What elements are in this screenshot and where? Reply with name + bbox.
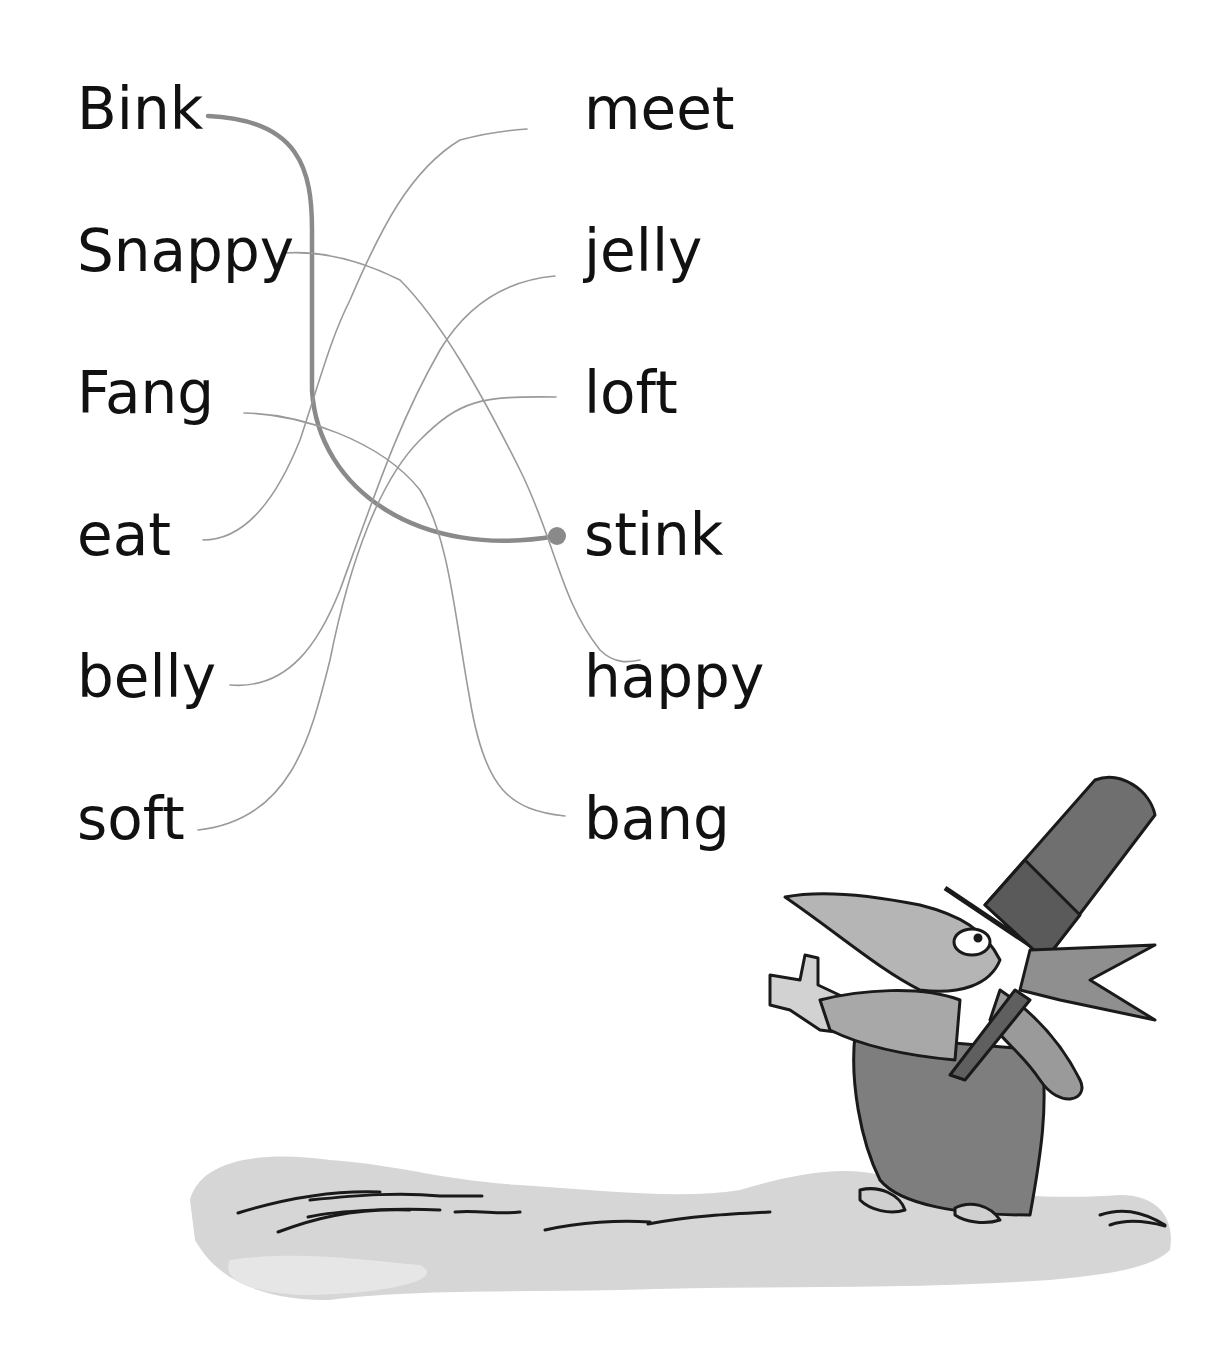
goblin-illustration <box>0 0 1229 1360</box>
goblin-character <box>770 777 1155 1222</box>
